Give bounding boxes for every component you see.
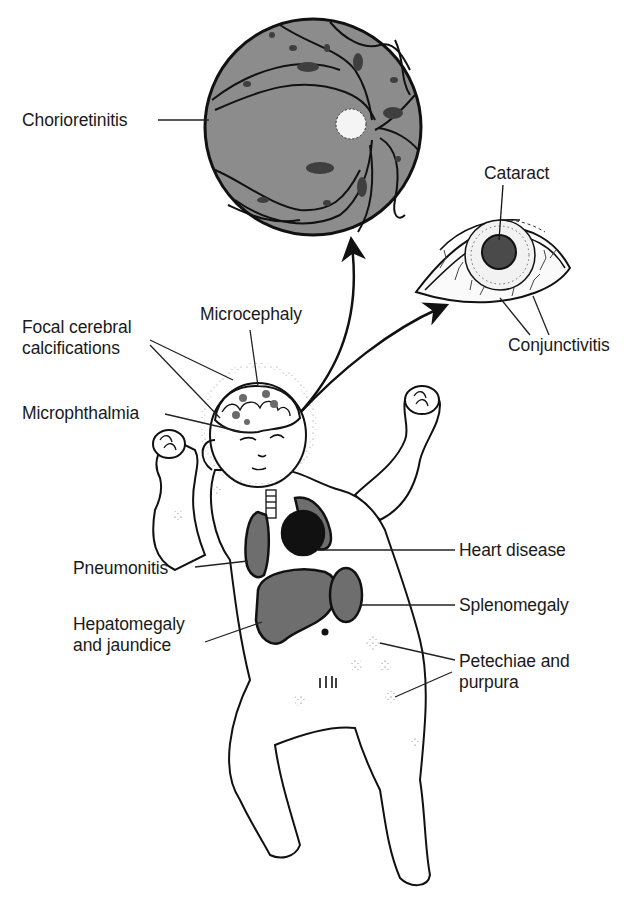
- heart-icon: [282, 511, 324, 555]
- label-heart-disease: Heart disease: [459, 540, 566, 561]
- label-pneumonitis: Pneumonitis: [73, 558, 168, 579]
- label-petechiae-line1: Petechiae and: [459, 651, 570, 672]
- navel-icon: [322, 629, 329, 636]
- left-lung-icon: [246, 512, 269, 577]
- label-microphthalmia: Microphthalmia: [22, 403, 139, 424]
- label-petechiae-line2: purpura: [459, 672, 570, 693]
- label-conjunctivitis: Conjunctivitis: [508, 335, 610, 356]
- label-hepatomegaly-line2: and jaundice: [73, 635, 185, 656]
- label-splenomegaly: Splenomegaly: [459, 595, 569, 616]
- optic-disc-icon: [336, 109, 366, 139]
- spleen-icon: [330, 568, 362, 622]
- diagram-canvas: [0, 0, 636, 898]
- label-cataract: Cataract: [484, 163, 549, 184]
- infant-illustration: [153, 383, 440, 885]
- label-petechiae-purpura: Petechiae and purpura: [459, 651, 570, 693]
- label-focal-line2: calcifications: [22, 338, 131, 359]
- label-microcephaly: Microcephaly: [200, 304, 302, 325]
- eye-illustration: [416, 220, 570, 303]
- label-chorioretinitis: Chorioretinitis: [22, 110, 127, 131]
- fundus-illustration: [205, 19, 421, 235]
- label-hepatomegaly-line1: Hepatomegaly: [73, 614, 185, 635]
- conjunctivitis-leader-line-1: [500, 298, 530, 335]
- label-focal-line1: Focal cerebral: [22, 317, 131, 338]
- label-hepatomegaly-jaundice: Hepatomegaly and jaundice: [73, 614, 185, 656]
- cataract-pupil-icon: [482, 235, 516, 269]
- conjunctivitis-leader-line-2: [533, 296, 549, 335]
- arrow-to-fundus: [298, 246, 354, 415]
- label-focal-cerebral-calcifications: Focal cerebral calcifications: [22, 317, 131, 359]
